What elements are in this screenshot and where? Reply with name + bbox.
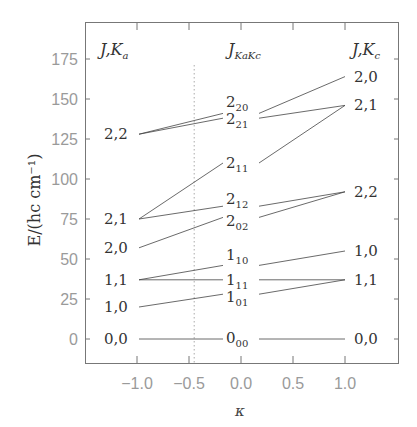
center-level-label: 111 [226,271,248,291]
y-tick-label: 75 [60,211,78,228]
correlation-line-right [259,77,345,114]
x-axis-title: κ [234,402,245,420]
y-tick-label: 100 [51,171,78,188]
right-level-labels: 0,01,11,02,22,12,0 [354,68,378,348]
center-level-label: 110 [226,246,248,266]
left-level-labels: 0,01,01,12,02,12,2 [104,125,128,348]
center-level-label: 101 [226,288,248,308]
left-level-label: 1,0 [104,298,128,316]
x-tick-label: −1.0 [121,375,153,392]
correlation-line-left [139,217,223,247]
correlation-line-left [139,118,223,134]
correlation-line-right [259,280,345,294]
center-level-labels: 000101111110202212211221220 [226,93,248,349]
correlation-line-right [259,105,345,163]
correlation-line-right [259,251,345,265]
x-tick-label: −0.5 [173,375,205,392]
y-tick-label: 150 [51,91,78,108]
correlation-line-left [139,113,223,134]
right-level-label: 0,0 [354,330,378,348]
correlation-line-right [259,192,345,218]
y-axis-title: E/(hc cm⁻¹) [25,154,44,247]
left-level-label: 0,0 [104,330,128,348]
left-level-label: 1,1 [104,271,128,289]
x-tick-label: 0.0 [230,375,252,392]
y-tick-label: 0 [69,331,78,348]
header-center: JKaKc [225,40,261,61]
right-level-label: 2,2 [354,183,378,201]
correlation-line-left [139,163,223,219]
right-level-label: 2,1 [354,96,378,114]
y-tick-label: 50 [60,251,78,268]
y-tick-label: 125 [51,131,78,148]
energy-level-correlation-chart: 0255075100125150175 −1.0−0.50.00.51.0 0,… [0,0,417,427]
center-level-label: 220 [226,93,248,113]
center-level-label: 000 [226,329,248,349]
header-left: J,Ka [97,40,129,61]
correlation-line-left [139,206,223,219]
right-level-label: 1,0 [354,242,378,260]
x-tick-label: 1.0 [334,375,356,392]
plot-frame [86,23,399,364]
header-right: J,Kc [349,40,381,61]
column-headers: J,Ka JKaKc J,Kc [97,40,381,61]
right-level-label: 2,0 [354,68,378,86]
center-level-label: 212 [226,190,248,210]
center-level-label: 211 [226,154,248,174]
correlation-line-left [139,265,223,279]
left-level-label: 2,0 [104,239,128,257]
left-level-label: 2,1 [104,210,128,228]
correlation-line-left [139,294,223,307]
y-tick-label: 175 [51,51,78,68]
correlation-line-right [259,192,345,206]
left-level-label: 2,2 [104,125,128,143]
center-level-label: 202 [226,212,248,232]
right-level-label: 1,1 [354,271,378,289]
x-tick-label: 0.5 [282,375,304,392]
correlation-line-right [259,105,345,118]
y-tick-label: 25 [60,291,78,308]
